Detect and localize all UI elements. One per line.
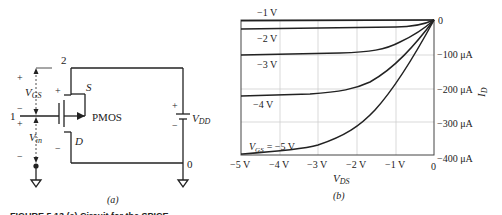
vdd-plus: +	[172, 100, 178, 111]
y-axis-label: ID	[475, 87, 489, 98]
label-vgs-3: −3 V	[257, 59, 278, 70]
curve-vgs-1	[241, 20, 434, 21]
sd-minus: −	[55, 143, 61, 154]
y-tick: −300 μA	[437, 118, 474, 129]
figure-caption: FIGURE 5.13 (a) Circuit for the SPICE	[10, 211, 169, 215]
x-tick: −1 V	[385, 159, 406, 170]
curve-vgs-4	[241, 20, 434, 96]
vin-label: Vin	[29, 131, 42, 145]
panel-a-label: (a)	[107, 194, 119, 206]
y-tick-labels: 0 −100 μA −200 μA −300 μA −400 μA	[437, 15, 474, 164]
x-tick: −2 V	[346, 159, 367, 170]
x-tick: −5 V	[230, 159, 251, 170]
source-terminal-label: S	[86, 81, 92, 93]
vgs-label: VGS	[25, 86, 42, 100]
node-1-label: 1	[10, 110, 16, 122]
y-tick: −100 μA	[437, 49, 474, 60]
label-vgs-4: −4 V	[253, 99, 274, 110]
panel-b-label: (b)	[333, 190, 345, 202]
vgs-plus-top: +	[17, 72, 23, 83]
x-tick-labels: −5 V −4 V −3 V −2 V −1 V 0	[230, 159, 436, 172]
vdd-label: VDD	[192, 112, 211, 126]
figure: 2 1 0 S D PMOS + − + − + − + − VGS Vin V…	[0, 0, 502, 215]
vin-arrow-up-icon	[34, 117, 39, 123]
vin-minus: −	[17, 151, 23, 162]
pmos-label: PMOS	[92, 111, 122, 123]
y-tick: −400 μA	[437, 153, 474, 164]
y-tick: 0	[438, 15, 443, 26]
label-vgs-2: −2 V	[257, 33, 278, 44]
vgs-arrow-up-icon	[34, 68, 39, 74]
ground-symbols	[31, 180, 188, 187]
vgs-arrow-down-icon	[34, 109, 39, 115]
chart-panel: −1 V −2 V −3 V −4 V VGS= −5 V −5 V −4 V …	[230, 7, 489, 202]
sd-plus: +	[55, 85, 61, 96]
x-axis-label: VDS	[333, 172, 350, 186]
x-tick: 0	[431, 161, 436, 172]
pmos-arrow-icon	[77, 112, 85, 120]
ground-icon-right	[178, 180, 188, 187]
vdd-minus: −	[172, 120, 178, 131]
input-terminal-dot	[33, 163, 38, 168]
x-tick: −4 V	[269, 159, 290, 170]
node-0-label: 0	[187, 158, 193, 170]
x-tick: −3 V	[307, 159, 328, 170]
vin-arrow-down-icon	[34, 157, 39, 163]
drain-terminal-label: D	[74, 135, 83, 147]
ground-icon-left	[31, 180, 41, 187]
label-vgs-1: −1 V	[257, 7, 278, 18]
vin-plus: +	[17, 118, 23, 129]
circuit-panel	[20, 68, 190, 180]
y-tick: −200 μA	[437, 84, 474, 95]
node-2-label: 2	[61, 54, 67, 66]
vgs-minus: −	[17, 103, 23, 114]
